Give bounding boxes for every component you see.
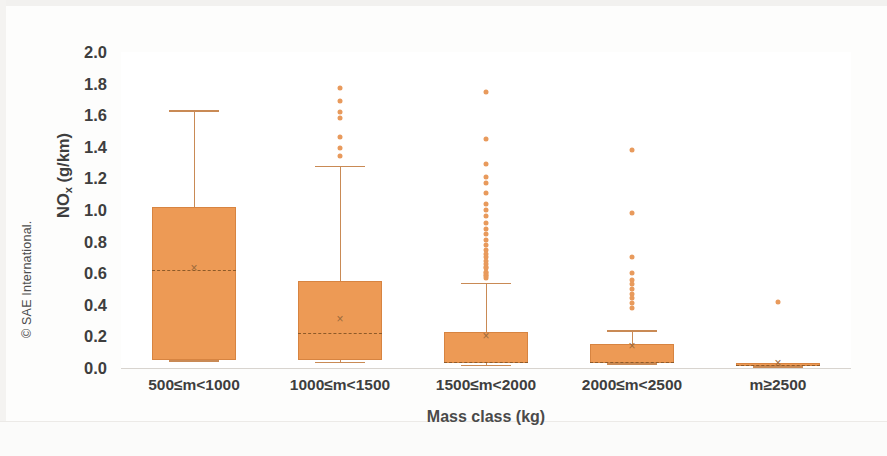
y-axis-tick-label: 0.4 [59,295,107,314]
outlier-point[interactable] [338,146,343,151]
outlier-point[interactable] [484,174,489,179]
y-axis-tick-label: 1.6 [59,106,107,125]
scanned-figure-page: © SAE International. NOx (g/km) 2.01.81.… [0,0,887,456]
outlier-point[interactable] [484,214,489,219]
x-axis-tick-label: m≥2500 [705,376,851,404]
mean-marker: × [482,330,489,342]
mean-marker: × [190,262,197,274]
upper-whisker-line [194,110,195,206]
x-axis-line [121,368,851,369]
x-axis-tick-label: 1000≤m<1500 [267,376,413,404]
lower-whisker-cap [169,360,219,362]
outlier-point[interactable] [484,208,489,213]
x-axis-tick-labels: 500≤m<10001000≤m<15001500≤m<20002000≤m<2… [121,376,851,404]
lower-whisker-cap [315,362,365,364]
outlier-point[interactable] [338,98,343,103]
outlier-point[interactable] [776,299,781,304]
box-plot-group[interactable]: × [559,52,705,368]
y-axis-tick-label: 0.8 [59,232,107,251]
outlier-point[interactable] [484,181,489,186]
box-plot-group[interactable]: × [267,52,413,368]
median-line [590,362,674,363]
upper-whisker-cap [315,166,365,168]
box-plot-group[interactable]: × [121,52,267,368]
y-axis-tick-label: 1.0 [59,201,107,220]
mean-marker: × [628,340,635,352]
outlier-point[interactable] [484,190,489,195]
y-axis-tick-label: 1.8 [59,74,107,93]
x-axis-tick-label: 1500≤m<2000 [413,376,559,404]
upper-whisker-cap [461,283,511,285]
y-axis-tick-label: 0.6 [59,264,107,283]
outlier-point[interactable] [338,110,343,115]
y-axis-tick-labels: 2.01.81.61.41.21.00.80.60.40.20.0 [59,52,107,368]
x-axis-tick-label: 2000≤m<2500 [559,376,705,404]
outlier-point[interactable] [338,154,343,159]
outlier-point[interactable] [484,220,489,225]
box-iqr[interactable] [152,207,236,360]
outlier-point[interactable] [630,255,635,260]
y-axis-tick-label: 1.4 [59,137,107,156]
outlier-point[interactable] [484,136,489,141]
outlier-point[interactable] [630,305,635,310]
x-axis-tick-label: 500≤m<1000 [121,376,267,404]
lower-whisker-cap [607,363,657,365]
outlier-point[interactable] [484,162,489,167]
outlier-point[interactable] [630,211,635,216]
lower-whisker-cap [461,365,511,367]
plot-area: ××××× [121,52,851,368]
y-axis-tick-label: 0.0 [59,359,107,378]
box-plot-group[interactable]: × [705,52,851,368]
upper-whisker-line [486,283,487,332]
outlier-point[interactable] [484,201,489,206]
page-edge-bottom [0,421,887,456]
upper-whisker-cap [607,330,657,332]
page-edge-left [0,0,6,456]
outlier-point[interactable] [338,135,343,140]
upper-whisker-line [340,166,341,281]
outlier-point[interactable] [484,231,489,236]
box-plot-group[interactable]: × [413,52,559,368]
median-line [444,362,528,363]
x-axis-title: Mass class (kg) [121,408,851,426]
boxplot-chart: NOx (g/km) 2.01.81.61.41.21.00.80.60.40.… [26,16,866,426]
outlier-point[interactable] [630,147,635,152]
outlier-point[interactable] [484,275,489,280]
upper-whisker-cap [169,110,219,112]
page-edge-top [0,0,887,6]
median-line [298,333,382,334]
mean-marker: × [336,313,343,325]
outlier-point[interactable] [484,89,489,94]
y-axis-tick-label: 0.2 [59,327,107,346]
outlier-point[interactable] [338,86,343,91]
outlier-point[interactable] [630,271,635,276]
y-axis-tick-label: 2.0 [59,43,107,62]
y-axis-tick-label: 1.2 [59,169,107,188]
outlier-point[interactable] [338,116,343,121]
